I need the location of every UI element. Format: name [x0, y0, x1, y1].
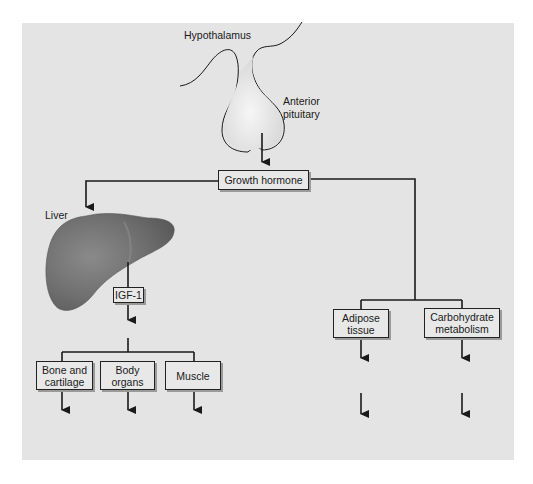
- adipose-text-line1: Adipose: [342, 312, 380, 324]
- liver-illustration: [46, 213, 174, 310]
- hypothalamus-label: Hypothalamus: [184, 29, 251, 41]
- anterior-pituitary-label-line1: Anterior: [283, 95, 320, 107]
- carbohydrate-metabolism-node: Carbohydrate metabolism: [424, 308, 500, 338]
- body-text-line2: organs: [111, 376, 143, 388]
- carb-text-line1: Carbohydrate: [430, 311, 494, 323]
- body-organs-node: Body organs: [100, 361, 155, 390]
- bone-cartilage-node: Bone and cartilage: [36, 361, 93, 390]
- igf1-text: IGF-1: [115, 289, 142, 301]
- muscle-text: Muscle: [176, 370, 209, 382]
- adipose-tissue-node: Adipose tissue: [333, 309, 389, 338]
- anterior-pituitary-label-line2: pituitary: [283, 108, 320, 120]
- bone-text-line1: Bone and: [42, 364, 87, 376]
- growth-hormone-text: Growth hormone: [224, 174, 302, 186]
- carb-text-line2: metabolism: [435, 323, 489, 335]
- liver-label: Liver: [45, 209, 68, 221]
- adipose-text-line2: tissue: [347, 324, 374, 336]
- muscle-node: Muscle: [165, 361, 221, 390]
- growth-hormone-node: Growth hormone: [218, 170, 309, 190]
- bone-text-line2: cartilage: [45, 376, 85, 388]
- hypothalamus-pituitary-illustration: [180, 22, 302, 152]
- body-text-line1: Body: [116, 364, 140, 376]
- igf1-node: IGF-1: [113, 287, 144, 303]
- diagram-canvas: [0, 0, 533, 484]
